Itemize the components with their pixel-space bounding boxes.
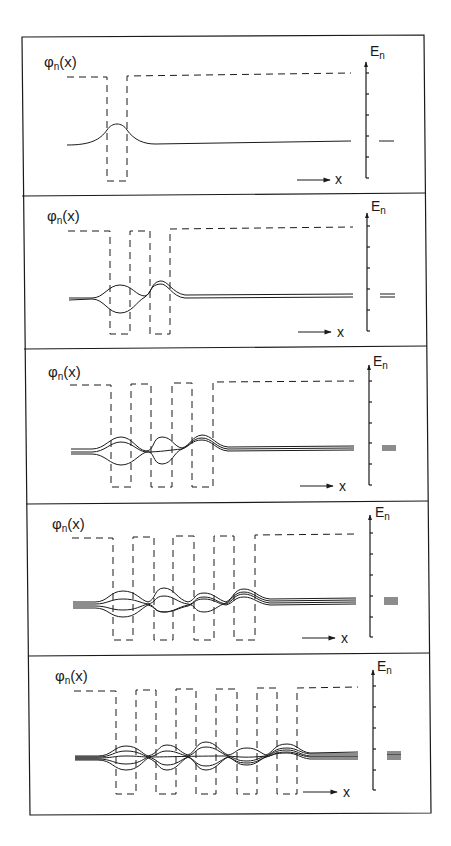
divider-1-2 (22, 193, 426, 196)
energy-axis (370, 515, 373, 637)
wavefunction-label: φn(x) (44, 54, 77, 72)
energy-axis (369, 365, 372, 485)
x-axis-label: x (343, 785, 350, 799)
energy-levels (380, 294, 395, 297)
x-axis-label: x (339, 479, 346, 493)
panel-3-triple-well (70, 365, 396, 487)
panel-2-double-well (68, 213, 395, 334)
divider-3-4 (26, 501, 428, 504)
panel-5-quintuple-well (74, 670, 401, 794)
panel-1-single-well (67, 62, 394, 181)
wavefunction-label: φn(x) (55, 668, 88, 686)
potential-profile (72, 534, 356, 640)
panel-4-quadruple-well (72, 515, 398, 640)
energy-axis-label: En (371, 199, 386, 216)
energy-axis-label: En (373, 354, 388, 371)
energy-levels (382, 446, 396, 450)
wavefunction-label: φn(x) (48, 364, 81, 382)
energy-axis-label: En (377, 659, 392, 676)
wavefunction-label: φn(x) (52, 516, 85, 534)
energy-levels (384, 598, 398, 604)
wavefunction-label: φn(x) (47, 208, 80, 226)
potential-profile (68, 227, 353, 334)
energy-axis (366, 62, 369, 178)
wavefunction-curves (75, 742, 358, 770)
x-axis-label: x (335, 172, 342, 186)
panel-frame (22, 35, 431, 815)
potential-profile (74, 687, 358, 794)
energy-axis (373, 670, 376, 790)
wavefunction-curves (69, 281, 353, 313)
energy-axis (367, 213, 370, 331)
coupled-wells-figure: φn(x) En x φn(x) En x φn(x) En x φn(x) E… (0, 0, 451, 846)
energy-levels (387, 752, 401, 759)
wavefunction-curve (67, 124, 351, 145)
divider-2-3 (24, 346, 427, 349)
potential-profile (70, 381, 354, 487)
x-axis-label: x (341, 631, 348, 645)
energy-axis-label: En (370, 44, 385, 61)
x-axis-label: x (337, 325, 344, 339)
figure-drawing (0, 0, 451, 846)
energy-axis-label: En (375, 505, 390, 522)
divider-4-5 (28, 653, 429, 656)
